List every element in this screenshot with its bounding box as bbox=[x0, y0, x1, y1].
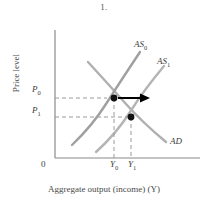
y-axis-title: Price level bbox=[11, 33, 21, 113]
economics-figure: 1. Price level Aggregate output (income bbox=[0, 0, 208, 204]
ad-curve bbox=[88, 62, 166, 142]
p1-subscript: 1 bbox=[38, 110, 41, 117]
as1-text: AS bbox=[157, 56, 167, 66]
ad-curve-label: AD bbox=[170, 136, 182, 146]
x-axis-title: Aggregate output (income) (Y) bbox=[0, 184, 208, 194]
y-tick-label-p0: P0 bbox=[32, 84, 41, 96]
equilibrium-point-1 bbox=[128, 114, 135, 121]
origin-label: 0 bbox=[41, 159, 46, 169]
equilibrium-point-0 bbox=[111, 95, 118, 102]
p0-subscript: 0 bbox=[38, 89, 41, 96]
y0-subscript: 0 bbox=[115, 164, 118, 171]
as1-subscript: 1 bbox=[167, 61, 170, 68]
y1-subscript: 1 bbox=[133, 164, 136, 171]
as0-subscript: 0 bbox=[144, 44, 147, 51]
as0-text: AS bbox=[134, 39, 144, 49]
y-tick-label-p1: P1 bbox=[32, 105, 41, 117]
plot-canvas bbox=[0, 0, 208, 204]
as0-curve-label: AS0 bbox=[134, 39, 147, 51]
x-tick-label-y0: Y0 bbox=[110, 159, 118, 171]
x-tick-label-y1: Y1 bbox=[128, 159, 136, 171]
as1-curve-label: AS1 bbox=[157, 56, 170, 68]
